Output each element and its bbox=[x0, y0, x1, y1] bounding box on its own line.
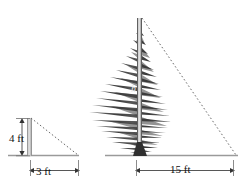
arrow-left-3ft bbox=[29, 168, 34, 173]
arrow-right-3ft bbox=[75, 168, 80, 173]
label-tree-height-h: h bbox=[131, 84, 136, 94]
small-triangle-hypotenuse bbox=[31, 118, 78, 155]
label-4ft: 4 ft bbox=[9, 133, 24, 144]
figure-canvas bbox=[0, 0, 249, 185]
arrow-right-15ft bbox=[230, 168, 235, 173]
similar-triangles-figure: 4 ft 3 ft 15 ft h bbox=[0, 0, 249, 185]
label-15ft: 15 ft bbox=[170, 164, 190, 175]
arrow-left-15ft bbox=[135, 168, 140, 173]
label-3ft: 3 ft bbox=[36, 166, 51, 177]
